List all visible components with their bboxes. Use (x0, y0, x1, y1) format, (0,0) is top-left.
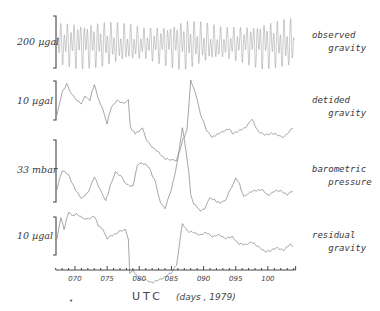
trace-label-detided-gravity: detided gravity (312, 94, 366, 120)
trace-observed-gravity (58, 19, 294, 70)
trace-label-observed-gravity: observed gravity (312, 29, 366, 55)
scale-bar-residual (53, 217, 56, 255)
trace-label-barometric-pressure: barometric pressure (312, 163, 372, 189)
x-tick-label: 085 (165, 275, 178, 283)
x-tick-label: 070 (68, 275, 81, 283)
trace-residual-gravity (57, 212, 293, 283)
scale-label-pressure: 33 mbar (17, 164, 57, 175)
scale-label-detided: 10 µgal (17, 95, 53, 106)
trace-barometric-pressure (57, 128, 293, 211)
scale-bars (53, 16, 56, 255)
scale-label-residual: 10 µgal (17, 230, 53, 241)
x-tick-label: 095 (229, 275, 242, 283)
traces (57, 19, 294, 283)
x-axis-title: UTC (days , 1979) (132, 290, 236, 303)
x-axis-title-detail: (days , 1979) (176, 292, 236, 302)
scale-label-observed: 200 µgal (17, 36, 59, 47)
x-tick-label: 075 (100, 275, 113, 283)
x-axis (56, 266, 296, 270)
x-tick-label: 100 (261, 275, 274, 283)
x-axis-title-main: UTC (132, 290, 163, 303)
x-tick-label: 090 (197, 275, 210, 283)
scale-bar-detided (53, 81, 56, 120)
trace-label-residual-gravity: residual gravity (312, 229, 366, 255)
footnote-mark: • (69, 297, 73, 305)
x-tick-label: 080 (133, 275, 146, 283)
trace-detided-gravity (57, 80, 293, 161)
